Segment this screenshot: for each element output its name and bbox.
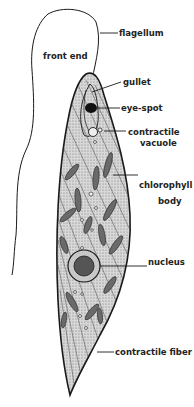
label-contractile-vacuole-1: contractile xyxy=(128,127,180,137)
label-contractile-vacuole-2: vacuole xyxy=(140,138,177,148)
label-gullet: gullet xyxy=(123,77,151,87)
contractile-vacuole xyxy=(89,128,98,137)
label-chlorophyll-body-2: body xyxy=(158,196,182,206)
label-chlorophyll-body-1: chlorophyll xyxy=(139,180,192,190)
label-flagellum: flagellum xyxy=(119,28,164,38)
label-nucleus: nucleus xyxy=(148,257,185,267)
euglena-diagram: front end flagellum gullet eye-spot cont… xyxy=(0,0,194,407)
label-eye-spot: eye-spot xyxy=(121,103,163,113)
label-front-end: front end xyxy=(43,51,88,61)
label-contractile-fiber: contractile fiber xyxy=(115,347,193,357)
eye-spot xyxy=(85,103,97,113)
nucleus xyxy=(68,250,100,282)
